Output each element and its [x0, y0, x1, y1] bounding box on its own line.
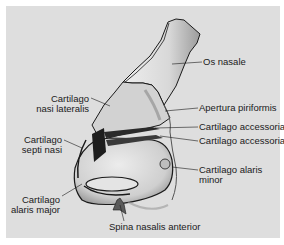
label-apertura-piriformis: Apertura piriformis [199, 103, 277, 114]
leader-cartilago-septi-nasi [64, 140, 82, 148]
label-cartilago-septi-nasi-line2: septi nasi [10, 145, 62, 156]
label-cartilago-accessoria-1: Cartilago accessoria [199, 122, 284, 133]
leader-apertura-piriformis [165, 108, 198, 111]
label-cartilago-alaris-major-line2: alaris major [8, 205, 60, 216]
nostril-opening [86, 177, 138, 191]
leader-cartilago-accessoria-1 [155, 127, 198, 128]
leader-cartilago-accessoria-2 [160, 136, 198, 141]
label-cartilago-alaris-minor-line2: minor [199, 175, 223, 186]
maxilla-shading [128, 202, 168, 209]
label-cartilago-nasi-lateralis-line2: nasi lateralis [30, 104, 89, 115]
label-spina-nasalis-anterior: Spina nasalis anterior [109, 222, 200, 233]
cartilago-alaris-minor-shape [160, 159, 170, 169]
label-os-nasale: Os nasale [203, 57, 246, 68]
label-cartilago-accessoria-2: Cartilago accessoria [199, 136, 284, 147]
